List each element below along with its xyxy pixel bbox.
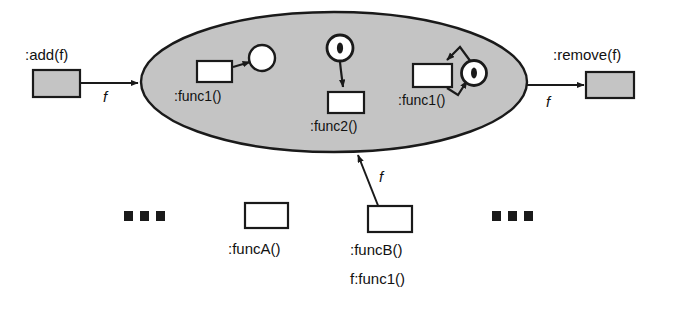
- func1-a-label: :func1(): [174, 88, 221, 104]
- ellipsis-right-dot-1: [492, 211, 501, 221]
- add-object-label: :add(f): [25, 46, 68, 63]
- ellipsis-left-dot-1: [124, 211, 133, 221]
- plain-circle: [249, 45, 275, 71]
- edge-label-remove: f: [546, 93, 550, 110]
- funcB-label: :funcB(): [350, 241, 403, 258]
- funcB-attribute-label: f:func1(): [350, 270, 405, 287]
- diagram-canvas: :add(f) :remove(f) f f f :func1() :func2…: [0, 0, 680, 312]
- func1-b-box: [413, 64, 452, 87]
- func2-box: [328, 92, 364, 113]
- func2-label: :func2(): [310, 118, 357, 134]
- edge-label-funcb: f: [379, 168, 383, 185]
- edge-funcb-to-ellipse: [358, 155, 379, 208]
- remove-object-box: [586, 72, 634, 98]
- ellipsis-left-dot-2: [140, 211, 149, 221]
- token-dot-right: [471, 68, 477, 79]
- remove-object-label: :remove(f): [553, 46, 621, 63]
- funcA-label: :funcA(): [228, 240, 281, 257]
- edge-label-add: f: [103, 88, 107, 105]
- token-dot-middle: [337, 42, 343, 53]
- ellipsis-left-dot-3: [156, 211, 165, 221]
- funcB-box: [368, 206, 412, 232]
- funcA-box: [245, 203, 288, 228]
- add-object-box: [33, 70, 80, 97]
- func1-b-label: :func1(): [398, 92, 445, 108]
- ellipsis-right-dot-2: [508, 211, 517, 221]
- func1-a-box: [197, 61, 232, 82]
- ellipsis-right-dot-3: [524, 211, 533, 221]
